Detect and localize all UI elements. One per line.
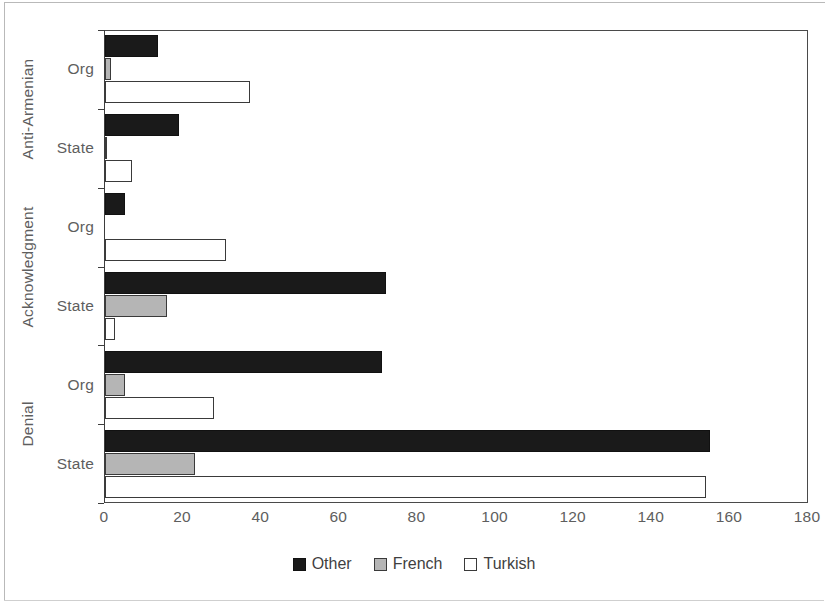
category-axis-tick <box>98 109 104 110</box>
bar-other-denial-state <box>105 430 710 452</box>
bar-other-denial-org <box>105 351 382 373</box>
category-axis-tick <box>98 345 104 346</box>
bar-turkish-acknowledgment-org <box>105 239 226 261</box>
legend-swatch-turkish-icon <box>464 558 477 571</box>
figure-bottom-rule <box>4 600 824 601</box>
y-group-label: Denial <box>19 402 37 447</box>
legend-item-french: French <box>374 555 443 573</box>
bar-french-denial-org <box>105 374 125 396</box>
bar-other-acknowledgment-org <box>105 193 125 215</box>
x-tick-label: 20 <box>173 508 191 526</box>
legend-label: Other <box>312 555 352 573</box>
bar-french-anti-armenian-org <box>105 58 111 80</box>
chart-figure: OrgStateOrgStateOrgState Anti-ArmenianAc… <box>0 0 828 606</box>
y-group-label: Anti-Armenian <box>19 58 37 159</box>
legend-item-other: Other <box>293 555 352 573</box>
y-tick-label: State <box>57 455 94 473</box>
bars-layer <box>105 30 808 503</box>
category-axis-tick <box>98 424 104 425</box>
bar-french-denial-state <box>105 453 195 475</box>
legend-item-turkish: Turkish <box>464 555 535 573</box>
category-axis-tick <box>98 188 104 189</box>
x-tick-label: 120 <box>559 508 585 526</box>
x-tick-label: 100 <box>481 508 507 526</box>
bar-other-anti-armenian-state <box>105 114 179 136</box>
x-tick-label: 40 <box>251 508 269 526</box>
x-tick-label: 180 <box>794 508 820 526</box>
x-tick-label: 0 <box>100 508 109 526</box>
bar-turkish-acknowledgment-state <box>105 318 115 340</box>
bar-turkish-anti-armenian-org <box>105 81 250 103</box>
legend-swatch-french-icon <box>374 558 387 571</box>
y-tick-label: State <box>57 297 94 315</box>
category-axis-tick <box>98 267 104 268</box>
y-group-label: Acknowledgment <box>19 206 37 327</box>
bar-turkish-anti-armenian-state <box>105 160 132 182</box>
y-tick-label: Org <box>68 60 94 78</box>
x-tick-label: 60 <box>330 508 348 526</box>
y-tick-label: State <box>57 139 94 157</box>
y-tick-label: Org <box>68 218 94 236</box>
bar-turkish-denial-state <box>105 476 706 498</box>
bar-french-acknowledgment-state <box>105 295 167 317</box>
chart-legend: OtherFrenchTurkish <box>0 555 828 573</box>
bar-turkish-denial-org <box>105 397 214 419</box>
legend-label: Turkish <box>483 555 535 573</box>
x-tick-label: 160 <box>716 508 742 526</box>
category-axis-tick <box>98 30 104 31</box>
x-tick-label: 140 <box>638 508 664 526</box>
y-axis-tick-labels: OrgStateOrgStateOrgState <box>0 0 94 606</box>
x-tick-label: 80 <box>408 508 426 526</box>
y-tick-label: Org <box>68 376 94 394</box>
bar-other-acknowledgment-state <box>105 272 386 294</box>
bar-french-anti-armenian-state <box>105 137 107 159</box>
bar-other-anti-armenian-org <box>105 35 158 57</box>
category-axis-tick <box>98 503 104 504</box>
legend-swatch-other-icon <box>293 558 306 571</box>
legend-label: French <box>393 555 443 573</box>
